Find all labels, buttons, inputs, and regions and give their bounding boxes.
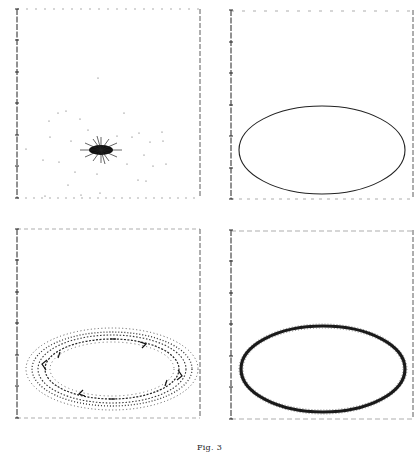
ellipse-curve xyxy=(239,106,405,194)
panel-top-right xyxy=(229,10,413,199)
central-cluster xyxy=(80,136,122,164)
scattered-points xyxy=(25,77,166,196)
panel-top-left xyxy=(15,9,200,198)
figure-canvas xyxy=(0,0,419,456)
panel-bottom-right xyxy=(229,230,413,419)
noisy-ring xyxy=(26,328,198,410)
figure-caption: Fig. 3 xyxy=(0,443,419,452)
thick-ring xyxy=(239,324,407,414)
panel-bottom-left xyxy=(15,229,200,418)
